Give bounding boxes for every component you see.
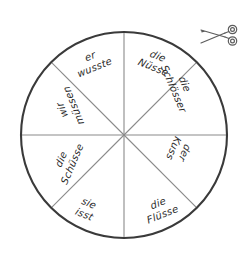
worksheet-page: er wusste die Nüsse die Schlösser xyxy=(0,0,248,262)
wheel-stage: er wusste die Nüsse die Schlösser xyxy=(0,0,248,262)
scissors-icon xyxy=(199,18,241,52)
